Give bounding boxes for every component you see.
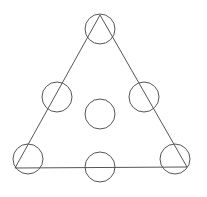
circle-top (85, 14, 115, 44)
circle-group (13, 14, 190, 182)
circle-bottom-right (160, 144, 190, 174)
triangle-circle-diagram (0, 0, 207, 197)
circle-center (85, 99, 115, 129)
circle-right-middle (129, 82, 159, 112)
circle-bottom-left (13, 144, 43, 174)
triangle-outline (15, 15, 187, 168)
circle-left-middle (42, 82, 72, 112)
